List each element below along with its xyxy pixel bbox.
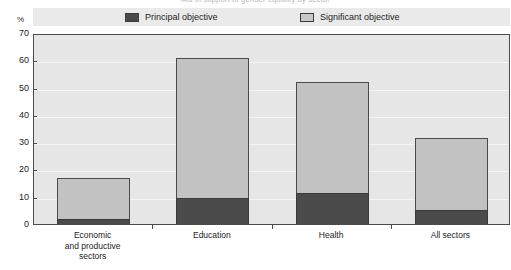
legend-label-principal: Principal objective [145, 12, 218, 23]
x-axis-category-label: Education [152, 230, 271, 241]
y-axis-tick-mark [33, 61, 37, 62]
bar-3[interactable] [296, 82, 369, 224]
legend-item-significant-objective[interactable]: Significant objective [300, 11, 400, 24]
y-axis: 010203040506070 [0, 34, 29, 225]
y-axis-tick-mark [33, 89, 37, 90]
x-axis-category-label-line: Education [152, 230, 271, 241]
x-axis-category-label: Health [272, 230, 391, 241]
bar-4[interactable] [415, 138, 488, 224]
legend-swatch-significant-icon [300, 13, 314, 22]
y-axis-tick-label: 50 [3, 83, 29, 93]
y-axis-unit-label: % [17, 15, 24, 24]
x-axis-category-label-line: and productive [33, 241, 152, 252]
legend-label-significant: Significant objective [320, 12, 400, 23]
y-axis-tick-label: 70 [3, 28, 29, 38]
gridline [34, 90, 509, 91]
bar-1[interactable] [57, 178, 130, 224]
y-axis-tick-label: 20 [3, 164, 29, 174]
x-axis-category-label-line: sectors [33, 251, 152, 262]
plot-area [33, 34, 510, 225]
x-axis-category-label: All sectors [391, 230, 510, 241]
x-axis-category-label-line: Economic [33, 230, 152, 241]
y-axis-tick-label: 60 [3, 55, 29, 65]
y-axis-tick-mark [33, 143, 37, 144]
legend-swatch-principal-icon [125, 13, 139, 22]
chart-legend: Principal objective Significant objectiv… [33, 8, 510, 26]
x-axis-labels: Economicand productivesectorsEducationHe… [33, 230, 510, 270]
bar-segment-principal-objective[interactable] [176, 198, 249, 224]
y-axis-tick-label: 40 [3, 110, 29, 120]
gridline [34, 117, 509, 118]
y-axis-tick-mark [33, 116, 37, 117]
x-axis-category-label-line: All sectors [391, 230, 510, 241]
gridline [34, 62, 509, 63]
x-axis-category-label-line: Health [272, 230, 391, 241]
chart-title-text: Aid in support of gender equality by sec… [0, 0, 511, 4]
bar-segment-significant-objective[interactable] [57, 178, 130, 224]
x-axis-tick-mark [391, 225, 392, 229]
y-axis-tick-label: 10 [3, 192, 29, 202]
bar-2[interactable] [176, 58, 249, 224]
y-axis-tick-mark [33, 198, 37, 199]
y-axis-tick-mark [33, 170, 37, 171]
x-axis-tick-mark [272, 225, 273, 229]
x-axis-category-label: Economicand productivesectors [33, 230, 152, 262]
bar-segment-principal-objective[interactable] [57, 219, 130, 224]
y-axis-tick-label: 30 [3, 137, 29, 147]
cropped-chart-title: Aid in support of gender equality by sec… [0, 0, 511, 7]
bar-segment-principal-objective[interactable] [296, 193, 369, 224]
bar-segment-principal-objective[interactable] [415, 210, 488, 224]
y-axis-tick-label: 0 [3, 219, 29, 229]
x-axis-tick-mark [152, 225, 153, 229]
chart-figure: Aid in support of gender equality by sec… [0, 0, 511, 270]
legend-item-principal-objective[interactable]: Principal objective [125, 11, 218, 24]
